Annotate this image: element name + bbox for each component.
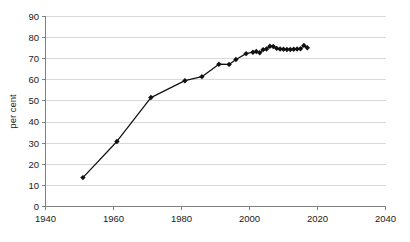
x-tick-labels-group: 194019601980200020202040 bbox=[35, 213, 396, 224]
x-tick-label-1940: 1940 bbox=[35, 213, 56, 224]
x-tick-label-2040: 2040 bbox=[375, 213, 396, 224]
y-axis-title-group: per cent bbox=[7, 94, 18, 129]
data-point-marker bbox=[182, 78, 187, 83]
data-series-group bbox=[80, 43, 310, 181]
y-axis-title: per cent bbox=[7, 94, 18, 129]
y-tick-label-60: 60 bbox=[28, 74, 39, 85]
y-tick-label-80: 80 bbox=[28, 32, 39, 43]
x-tick-label-1960: 1960 bbox=[103, 213, 124, 224]
y-tick-label-0: 0 bbox=[34, 201, 39, 212]
y-tick-labels-group: 0102030405060708090 bbox=[28, 11, 39, 212]
x-tick-label-2000: 2000 bbox=[239, 213, 260, 224]
gridlines-group bbox=[46, 17, 386, 186]
x-tick-label-1980: 1980 bbox=[171, 213, 192, 224]
data-point-marker bbox=[243, 51, 248, 56]
y-tick-label-30: 30 bbox=[28, 138, 39, 149]
axes-group bbox=[46, 17, 386, 207]
y-tick-label-20: 20 bbox=[28, 159, 39, 170]
y-tick-label-40: 40 bbox=[28, 116, 39, 127]
y-tick-label-90: 90 bbox=[28, 11, 39, 22]
y-tick-label-70: 70 bbox=[28, 53, 39, 64]
line-chart: 0102030405060708090 19401960198020002020… bbox=[0, 0, 410, 242]
series-line-0 bbox=[83, 45, 307, 177]
chart-container: 0102030405060708090 19401960198020002020… bbox=[0, 0, 410, 242]
x-tick-label-2020: 2020 bbox=[307, 213, 328, 224]
y-tick-label-50: 50 bbox=[28, 95, 39, 106]
tick-marks-group bbox=[42, 17, 386, 211]
y-tick-label-10: 10 bbox=[28, 180, 39, 191]
